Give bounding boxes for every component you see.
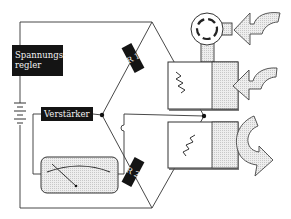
amplifier-box: Verstärker (41, 107, 93, 121)
heated-resistor-upper (168, 62, 239, 110)
voltage-regulator-box: Spannungs- regler (12, 45, 63, 76)
battery-icon (14, 103, 26, 123)
airflow-arrow-top-icon (234, 13, 280, 45)
turbine-icon (191, 13, 232, 62)
junction-dot-left (100, 113, 104, 117)
meter-gauge (41, 157, 118, 193)
junction-dot-right (202, 114, 206, 118)
voltage-regulator-label-line1: Spannungs- (15, 50, 60, 60)
airflow-arrow-middle-icon (233, 68, 277, 100)
amplifier-label: Verstärker (44, 109, 90, 119)
voltage-regulator-label-line2: regler (15, 60, 60, 70)
heated-resistor-lower (168, 122, 239, 169)
resistor-r1: R 1 (120, 42, 145, 73)
airflow-arrow-return-icon (236, 116, 273, 176)
